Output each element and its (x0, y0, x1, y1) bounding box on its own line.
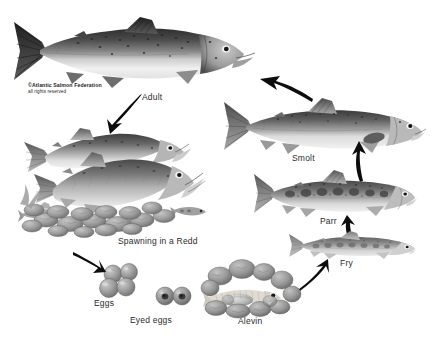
credit-line-2: all rights reserved (28, 89, 102, 94)
arrow-eyedeggs-to-alevin (184, 300, 206, 314)
salmon-fry-illustration (288, 230, 416, 260)
alevin-with-yolk-sac-in-gravel-illustration (202, 258, 300, 318)
stage-parr: Parr (252, 168, 417, 220)
stage-adult: Adult (12, 14, 262, 92)
stage-smolt: Smolt (222, 96, 427, 158)
salmon-life-cycle-diagram: Adult ©Atlantic Salmon Federation all ri… (0, 0, 437, 340)
stage-label-adult: Adult (142, 92, 162, 102)
copyright-credit: ©Atlantic Salmon Federation all rights r… (28, 82, 102, 94)
stage-fry: Fry (288, 230, 416, 260)
stage-label-eyed-eggs: Eyed eggs (130, 315, 172, 325)
salmon-parr-illustration (252, 168, 417, 220)
stage-label-spawning: Spawning in a Redd (118, 236, 198, 246)
stage-alevin: Alevin (202, 258, 300, 318)
spawning-salmon-pair-in-gravel-redd-illustration (18, 128, 208, 238)
salmon-smolt-illustration (222, 96, 427, 158)
stage-label-fry: Fry (340, 258, 353, 268)
credit-line-1: ©Atlantic Salmon Federation (28, 82, 102, 88)
stage-label-alevin: Alevin (238, 316, 262, 326)
adult-salmon-illustration (12, 14, 262, 92)
arrow-adult-to-spawning (98, 92, 144, 136)
arrow-alevin-to-fry (296, 258, 334, 292)
stage-label-eggs: Eggs (94, 298, 114, 308)
arrow-spawning-to-eggs (72, 250, 108, 276)
stage-label-parr: Parr (320, 216, 337, 226)
stage-label-smolt: Smolt (292, 153, 315, 163)
stage-spawning: Spawning in a Redd (18, 128, 208, 238)
